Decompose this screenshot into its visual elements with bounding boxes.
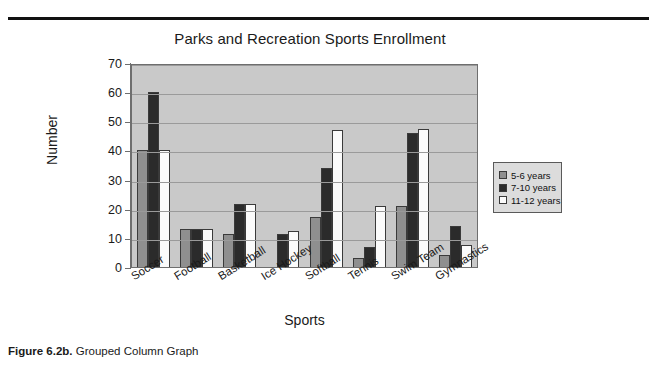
y-tick-mark [125, 122, 131, 123]
x-tick-slot: Softball [305, 270, 348, 316]
gridline [132, 123, 477, 124]
gridline [132, 211, 477, 212]
chart-title: Parks and Recreation Sports Enrollment [100, 30, 520, 47]
bar-group [391, 65, 434, 267]
y-tick-mark [125, 268, 131, 269]
y-tick-label: 50 [88, 115, 122, 129]
bar [159, 150, 170, 267]
y-tick-label: 10 [88, 232, 122, 246]
bar [418, 129, 429, 267]
chart-legend: 5-6 years7-10 years11-12 years [493, 162, 562, 213]
legend-item: 5-6 years [499, 170, 557, 181]
legend-swatch [499, 196, 507, 204]
bar-groups [132, 65, 477, 267]
legend-swatch [499, 171, 507, 179]
bar-group [348, 65, 391, 267]
legend-label: 5-6 years [511, 170, 551, 181]
y-tick-mark [125, 93, 131, 94]
legend-item: 7-10 years [499, 182, 557, 193]
gridline [132, 152, 477, 153]
legend-swatch [499, 184, 507, 192]
plot-area [131, 64, 478, 268]
y-axis-title: Number [44, 80, 60, 200]
figure-caption: Figure 6.2b. Grouped Column Graph [8, 345, 198, 357]
bar [332, 130, 343, 267]
bar-group [305, 65, 348, 267]
legend-item: 11-12 years [499, 195, 557, 206]
y-tick-label: 40 [88, 144, 122, 158]
y-tick-mark [125, 151, 131, 152]
y-tick-label: 0 [88, 261, 122, 275]
y-tick-label: 20 [88, 203, 122, 217]
y-tick-mark [125, 239, 131, 240]
legend-label: 11-12 years [511, 195, 560, 206]
y-tick-mark [125, 64, 131, 65]
x-tick-slot: Tennis [348, 270, 391, 316]
x-tick-slot: Gymnastics [435, 270, 478, 316]
top-divider-rule [8, 17, 649, 20]
gridline [132, 65, 477, 66]
gridline [132, 94, 477, 95]
chart-figure: Parks and Recreation Sports Enrollment N… [0, 24, 657, 320]
figure-page: Parks and Recreation Sports Enrollment N… [0, 0, 657, 374]
bar-group [132, 65, 175, 267]
y-tick-label: 30 [88, 174, 122, 188]
legend-label: 7-10 years [511, 182, 556, 193]
bar [321, 168, 332, 267]
x-tick-slot: Swim Team [391, 270, 434, 316]
x-tick-slot: Basketball [218, 270, 261, 316]
bar-group [434, 65, 477, 267]
bar [396, 206, 407, 267]
y-tick-label: 60 [88, 86, 122, 100]
x-axis-tick-labels: SoccerFootballBasketballIce HockeySoftba… [131, 270, 478, 316]
bar [310, 217, 321, 267]
figure-caption-label: Figure 6.2b. [8, 345, 73, 357]
bar-group [175, 65, 218, 267]
x-axis-title: Sports [131, 312, 478, 328]
y-tick-mark [125, 181, 131, 182]
figure-caption-text: Grouped Column Graph [73, 345, 199, 357]
y-axis-tick-labels: 010203040506070 [88, 64, 122, 268]
x-tick-slot: Soccer [131, 270, 174, 316]
x-tick-slot: Football [174, 270, 217, 316]
x-tick-slot: Ice Hockey [261, 270, 304, 316]
bar-group [218, 65, 261, 267]
gridline [132, 182, 477, 183]
gridline [132, 240, 477, 241]
y-tick-mark [125, 210, 131, 211]
bar [137, 150, 148, 267]
bar-group [261, 65, 304, 267]
y-tick-label: 70 [88, 57, 122, 71]
